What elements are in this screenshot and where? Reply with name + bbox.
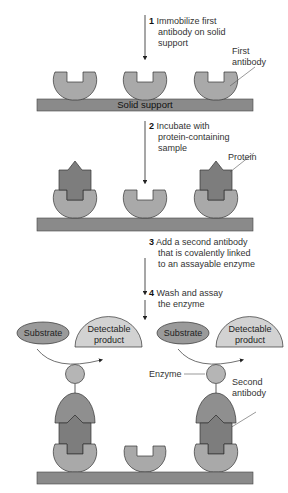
step-1-line-1: Immobilize first xyxy=(157,16,217,26)
protein-label: Protein xyxy=(228,152,257,163)
first-antibody-label-line-2: antibody xyxy=(232,57,266,68)
reaction-arrow-1 xyxy=(37,349,101,364)
first-antibody-bottom-empty xyxy=(124,446,166,472)
solid-support-label: Solid support xyxy=(37,99,253,111)
step-4-line-2: the enzyme xyxy=(149,299,223,310)
first-antibody-1 xyxy=(53,72,96,100)
step-4-number: 4 xyxy=(149,288,154,298)
enzyme-1 xyxy=(66,365,85,384)
first-antibody-3 xyxy=(194,72,237,100)
enzyme-label: Enzyme xyxy=(149,369,182,380)
step-3-number: 3 xyxy=(149,237,154,247)
reaction-arrow-2 xyxy=(178,349,242,364)
step-3-text: 3 Add a second antibody that is covalent… xyxy=(149,237,255,270)
step-1-line-3: support xyxy=(149,38,226,49)
substrate-label-1: Substrate xyxy=(17,328,69,339)
first-antibody-empty xyxy=(123,190,166,218)
step-1-line-2: antibody on solid xyxy=(149,27,226,38)
step-3-line-3: to an assayable enzyme xyxy=(149,259,255,270)
step-2-line-1: Incubate with xyxy=(157,121,210,131)
step-1-number: 1 xyxy=(149,16,154,26)
detectable-product-2-line-2: product xyxy=(219,335,281,346)
detectable-product-1-line-1: Detectable xyxy=(78,324,140,335)
enzyme-2 xyxy=(207,365,226,384)
second-antibody-label-line-1: Second xyxy=(232,377,266,388)
step-2-number: 2 xyxy=(149,121,154,131)
second-antibody-label-line-2: antibody xyxy=(232,388,266,399)
step-3-line-1: Add a second antibody xyxy=(156,237,248,247)
first-antibody-2 xyxy=(123,72,166,100)
step-4-line-1: Wash and assay xyxy=(157,288,223,298)
step-1-text: 1 Immobilize first antibody on solid sup… xyxy=(149,16,226,49)
step-4-text: 4 Wash and assay the enzyme xyxy=(149,288,223,310)
second-antibody-label: Second antibody xyxy=(232,377,266,399)
detectable-product-1-line-2: product xyxy=(78,335,140,346)
detectable-product-label-2: Detectable product xyxy=(219,324,281,345)
first-antibody-label: First antibody xyxy=(232,46,266,68)
substrate-label-2: Substrate xyxy=(157,328,209,339)
step-2-line-2: protein-containing xyxy=(149,132,230,143)
elisa-diagram: 1 Immobilize first antibody on solid sup… xyxy=(0,0,288,493)
detectable-product-2-line-1: Detectable xyxy=(219,324,281,335)
detectable-product-label-1: Detectable product xyxy=(78,324,140,345)
step-2-line-3: sample xyxy=(149,143,230,154)
solid-support-3 xyxy=(37,472,253,484)
step-2-text: 2 Incubate with protein-containing sampl… xyxy=(149,121,230,154)
first-antibody-label-line-1: First xyxy=(232,46,266,57)
step-3-line-2: that is covalently linked xyxy=(149,248,255,259)
solid-support-2 xyxy=(37,218,253,231)
